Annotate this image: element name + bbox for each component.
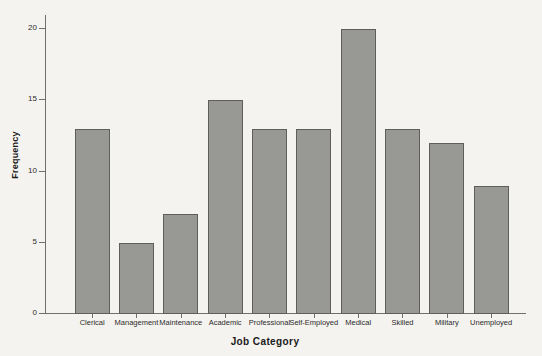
plot-area xyxy=(45,15,526,314)
bar[interactable] xyxy=(385,129,420,314)
bar[interactable] xyxy=(341,29,376,314)
y-tick-label: 0 xyxy=(0,309,37,317)
bar[interactable] xyxy=(252,129,287,314)
bar[interactable] xyxy=(163,214,198,314)
y-axis-title: Frequency xyxy=(10,110,20,200)
x-axis-title: Job Category xyxy=(45,336,485,347)
x-tick-label: Unemployed xyxy=(459,319,523,327)
y-tick-label: 5 xyxy=(0,238,37,246)
bar[interactable] xyxy=(119,243,154,314)
bar[interactable] xyxy=(474,186,509,314)
bar-chart: 05101520 Frequency ClericalManagementMai… xyxy=(0,0,542,356)
bar[interactable] xyxy=(429,143,464,314)
bar[interactable] xyxy=(296,129,331,314)
y-tick-label: 20 xyxy=(0,24,37,32)
y-tick-label: 15 xyxy=(0,95,37,103)
bar[interactable] xyxy=(75,129,110,314)
bar[interactable] xyxy=(208,100,243,314)
